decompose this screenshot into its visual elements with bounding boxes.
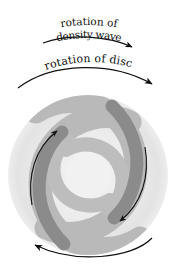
density-wave-label-line1: rotation of	[60, 15, 120, 30]
spiral-density-wave-figure: rotation of density wave rotation of dis…	[0, 0, 176, 270]
galactic-disc	[8, 95, 168, 255]
density-wave-label-line2: density wave	[55, 28, 123, 43]
disc-rotation-label: rotation of disc	[43, 52, 134, 73]
disc-core	[65, 152, 111, 198]
disc-rotation-arc	[18, 68, 152, 88]
